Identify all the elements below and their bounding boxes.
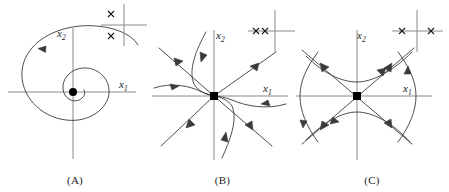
panel-a-plot: [0, 0, 150, 192]
phase-portrait-figure: x2 x1 (A): [0, 0, 449, 192]
panel-a: x2 x1 (A): [0, 0, 150, 192]
panel-c: x2 x1 (C): [295, 0, 449, 192]
x1-axis-label-a: x1: [119, 78, 128, 93]
panel-c-caption: (C): [295, 174, 449, 186]
x1-axis-label-b: x1: [263, 82, 272, 97]
equilibrium-point-c: [353, 92, 361, 100]
spiral-trajectory-a: [22, 26, 138, 121]
x1-axis-label-c: x1: [403, 82, 412, 97]
panel-b: x2 x1 (B): [150, 0, 295, 192]
panel-b-caption: (B): [150, 174, 295, 186]
x2-axis-label-c: x2: [357, 29, 366, 44]
flow-arrow-a-1: [38, 46, 46, 53]
panel-c-plot: [295, 0, 449, 192]
panel-a-caption: (A): [0, 174, 150, 186]
x2-axis-label-b: x2: [216, 29, 225, 44]
x2-axis-label-a: x2: [57, 27, 66, 42]
equilibrium-point-a: [69, 88, 77, 96]
equilibrium-point-b: [210, 92, 218, 100]
